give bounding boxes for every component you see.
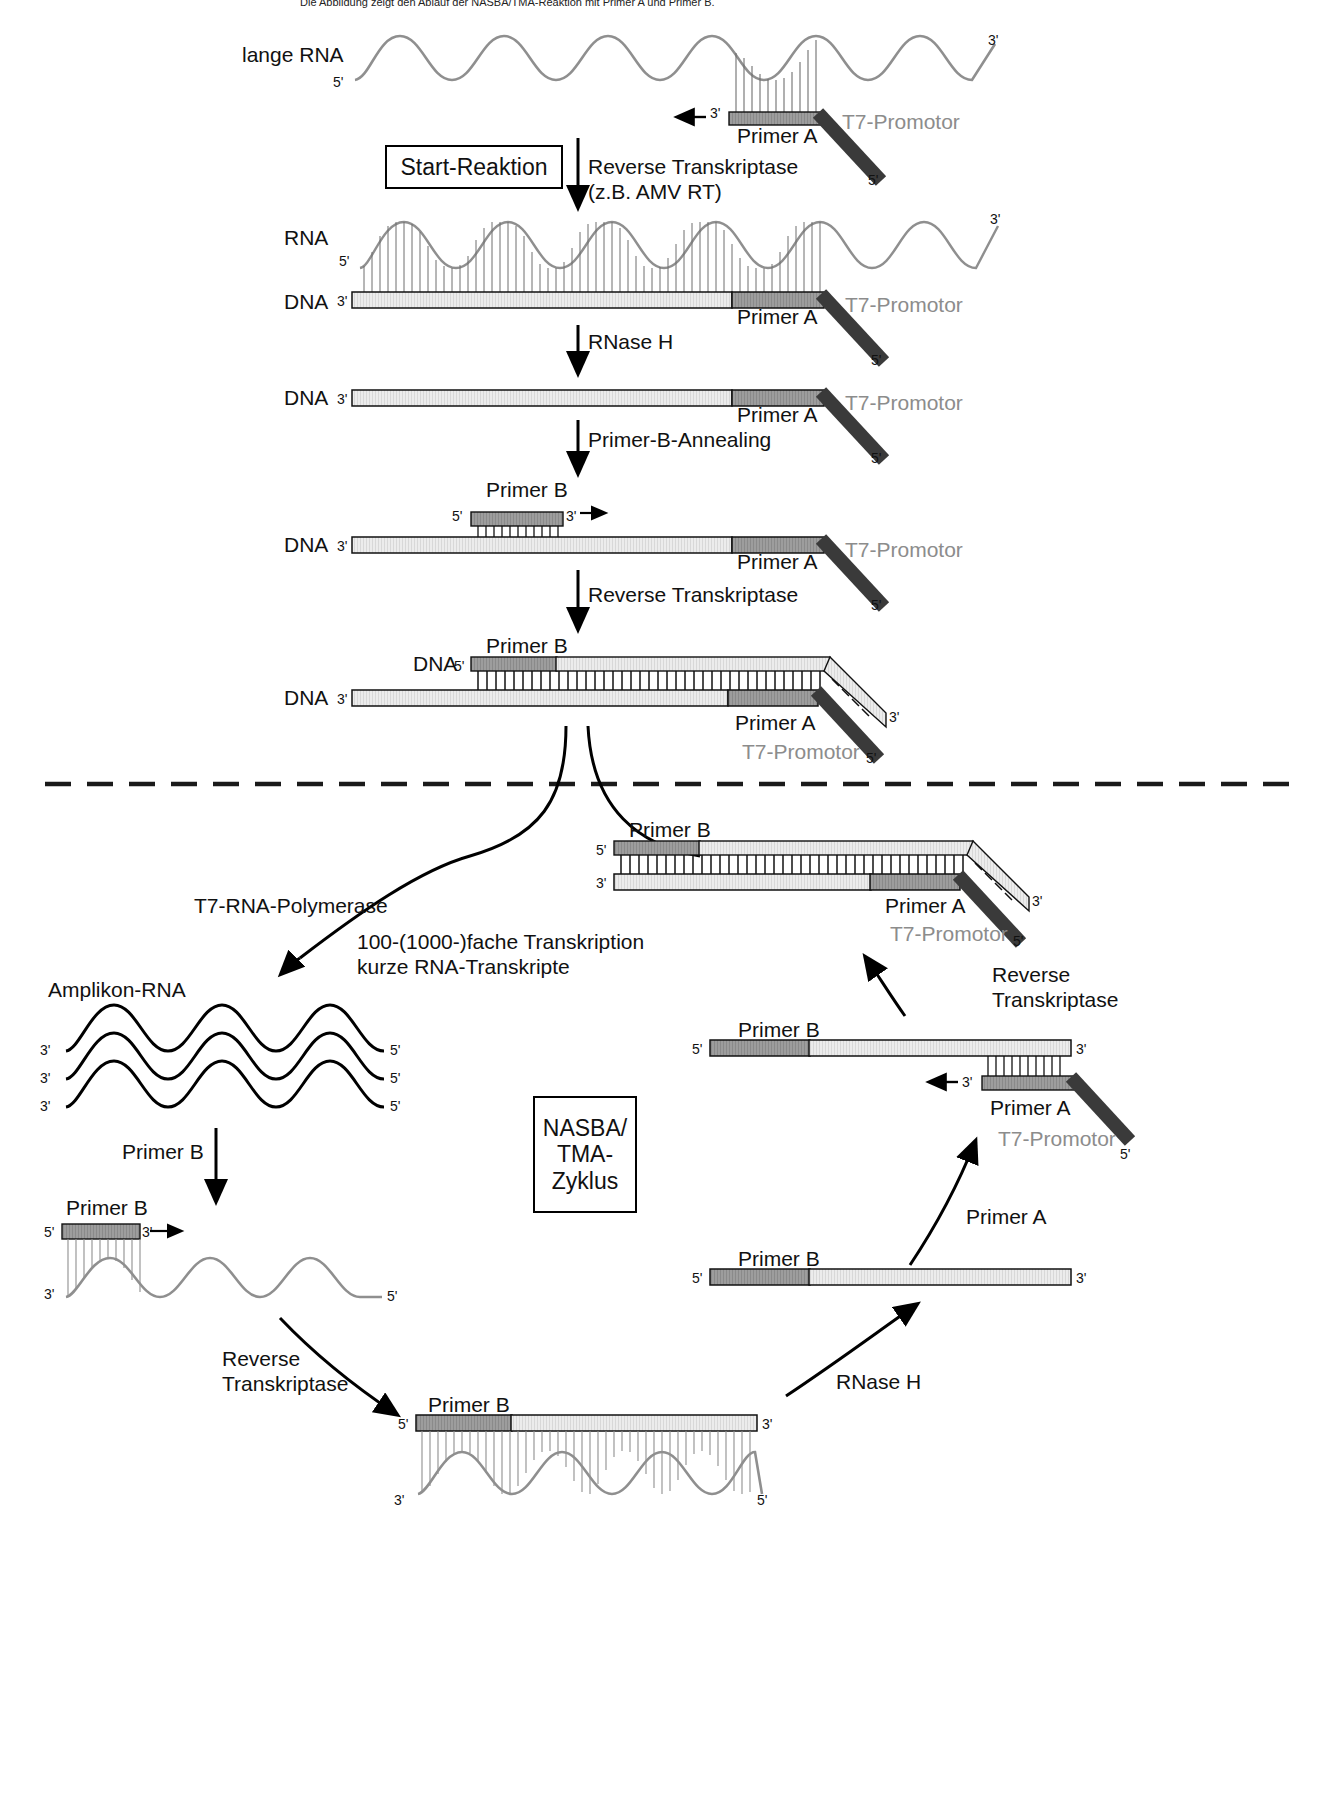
label-5prime-lange-rna: 5': [333, 74, 343, 91]
label-3prime-rna-2: 3': [990, 211, 1000, 228]
label-5prime-promotor-1: 5': [868, 172, 878, 189]
label-t7-promotor-cycle-top: T7-Promotor: [890, 922, 1008, 947]
label-5prime-cycle-top-promotor: 5': [1013, 933, 1023, 950]
label-primer-a-4: Primer A: [737, 550, 818, 575]
label-5prime-amplikon-1: 5': [390, 1042, 400, 1059]
label-3prime-amplikon-1: 3': [40, 1042, 50, 1059]
label-rna-2: RNA: [284, 226, 328, 251]
figure-canvas: Die Abbildung zeigt den Ablauf der NASBA…: [0, 0, 1341, 1795]
label-primer-b-step-left: Primer B: [122, 1140, 204, 1165]
label-primer-a-cycle-mid: Primer A: [990, 1096, 1071, 1121]
label-t7-promotor-5: T7-Promotor: [742, 740, 860, 765]
label-5prime-left-primer-b: 5': [44, 1224, 54, 1241]
label-3prime-primer-a-1: 3': [710, 105, 720, 122]
label-rnase-h-1: RNase H: [588, 330, 673, 355]
label-3prime-cycle-bottom: 3': [1076, 1270, 1086, 1287]
label-5prime-stage5-promotor: 5': [866, 750, 876, 767]
label-primer-a-1: Primer A: [737, 124, 818, 149]
label-3prime-primer-b-4: 3': [566, 508, 576, 525]
label-5prime-cycle-bottom: 5': [692, 1270, 702, 1287]
label-3prime-dna-5: 3': [337, 691, 347, 708]
label-t7-promotor-2: T7-Promotor: [845, 293, 963, 318]
label-t7-promotor-3: T7-Promotor: [845, 391, 963, 416]
label-primer-b-cycle-mid: Primer B: [738, 1018, 820, 1043]
label-5prime-primer-b-4: 5': [452, 508, 462, 525]
label-primer-a-step-right: Primer A: [966, 1205, 1047, 1230]
label-3prime-stage5-end: 3': [889, 709, 899, 726]
label-3prime-left-primer-b: 3': [142, 1224, 152, 1241]
cycle-strand-with-primer-a: [710, 1040, 1130, 1141]
label-3prime-bottom-right: 3': [762, 1416, 772, 1433]
label-lange-rna: lange RNA: [242, 43, 344, 68]
label-primer-b-cycle-top: Primer B: [629, 818, 711, 843]
label-primer-b-cycle-bottom: Primer B: [738, 1247, 820, 1272]
label-t7-rna-polymerase: T7-RNA-Polymerase: [194, 894, 388, 919]
label-primer-b-4: Primer B: [486, 478, 568, 503]
label-3prime-dna-2: 3': [337, 293, 347, 310]
left-rna-primer-b: [62, 1224, 382, 1297]
label-5prime-cycle-mid-promotor: 5': [1120, 1146, 1130, 1163]
label-dna-3: DNA: [284, 386, 328, 411]
label-reverse-transkriptase-1: Reverse Transkriptase: [588, 583, 798, 608]
label-reverse-transkriptase-cycle: ReverseTranskriptase: [992, 963, 1118, 1013]
label-5prime-bottom: 5': [398, 1416, 408, 1433]
label-3prime-amplikon-2: 3': [40, 1070, 50, 1087]
label-5prime-cycle-mid: 5': [692, 1041, 702, 1058]
nasba-tma-zyklus-box: NASBA/ TMA- Zyklus: [533, 1096, 637, 1213]
label-amplikon-rna: Amplikon-RNA: [48, 978, 186, 1003]
label-transcription-note: 100-(1000-)fache Transkriptionkurze RNA-…: [357, 930, 644, 980]
start-reaktion-box: Start-Reaktion: [385, 145, 563, 189]
label-rnase-h-cycle: RNase H: [836, 1370, 921, 1395]
label-5prime-amplikon-3: 5': [390, 1098, 400, 1115]
label-dna-5-top: DNA: [413, 652, 457, 677]
arrow-reverse-transkriptase-cycle: [866, 958, 905, 1016]
label-primer-a-3: Primer A: [737, 403, 818, 428]
label-t7-promotor-1: T7-Promotor: [842, 110, 960, 135]
label-t7-promotor-4: T7-Promotor: [845, 538, 963, 563]
label-5prime-promotor-4: 5': [871, 597, 881, 614]
label-dna-2: DNA: [284, 290, 328, 315]
label-3prime-left-rna: 3': [44, 1286, 54, 1303]
label-3prime-cycle-mid-right: 3': [1076, 1041, 1086, 1058]
label-3prime-lange-rna-end: 3': [988, 32, 998, 49]
label-5prime-promotor-3: 5': [871, 450, 881, 467]
label-3prime-cycle-top-end: 3': [1032, 893, 1042, 910]
label-5prime-dna-5: 5': [454, 658, 464, 675]
label-primer-a-cycle-top: Primer A: [885, 894, 966, 919]
label-3prime-cycle-mid-primer: 3': [962, 1074, 972, 1091]
label-primer-b-left: Primer B: [66, 1196, 148, 1221]
label-primer-a-2: Primer A: [737, 305, 818, 330]
label-reverse-transkriptase-left: ReverseTranskriptase: [222, 1347, 348, 1397]
label-3prime-dna-3: 3': [337, 391, 347, 408]
label-3prime-bottom-left: 3': [394, 1492, 404, 1509]
label-dna-5-bottom: DNA: [284, 686, 328, 711]
label-reverse-transkriptase-amv: Reverse Transkriptase(z.B. AMV RT): [588, 155, 798, 205]
amplikon-rna-waves: [66, 1005, 384, 1107]
label-primer-b-5: Primer B: [486, 634, 568, 659]
label-primer-a-5: Primer A: [735, 711, 816, 736]
label-3prime-cycle-top: 3': [596, 875, 606, 892]
arrow-primer-a-cycle: [910, 1142, 975, 1265]
stage2-rna-dna-hybrid: [352, 222, 998, 362]
bottom-rna-dna-hybrid: [416, 1415, 762, 1494]
label-primer-b-bottom: Primer B: [428, 1393, 510, 1418]
label-5prime-amplikon-2: 5': [390, 1070, 400, 1087]
label-5prime-cycle-top: 5': [596, 842, 606, 859]
start-reaktion-label: Start-Reaktion: [400, 154, 547, 180]
label-5prime-bottom-right-rna: 5': [757, 1492, 767, 1509]
label-3prime-dna-4: 3': [337, 538, 347, 555]
nasba-tma-label: NASBA/ TMA- Zyklus: [543, 1115, 627, 1194]
label-5prime-promotor-2: 5': [871, 352, 881, 369]
label-5prime-left-rna: 5': [387, 1288, 397, 1305]
label-primer-b-annealing: Primer-B-Annealing: [588, 428, 771, 453]
label-t7-promotor-cycle-mid: T7-Promotor: [998, 1127, 1116, 1152]
label-3prime-amplikon-3: 3': [40, 1098, 50, 1115]
label-dna-4: DNA: [284, 533, 328, 558]
label-5prime-rna-2: 5': [339, 253, 349, 270]
